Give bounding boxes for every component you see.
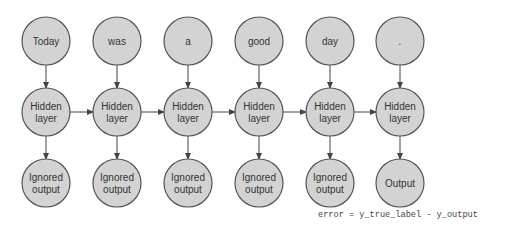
input-node-5: . xyxy=(376,17,424,65)
ignored-output-node-2-label: Ignored xyxy=(171,172,205,183)
input-node-2: a xyxy=(164,17,212,65)
ignored-output-node-1-label: output xyxy=(103,184,131,195)
input-node-1-label: was xyxy=(107,36,126,47)
ignored-output-node-3-label: output xyxy=(245,184,273,195)
hidden-layer-node-2-label: layer xyxy=(177,113,199,124)
output-node-label: Output xyxy=(385,178,415,189)
hidden-layer-node-4: Hiddenlayer xyxy=(306,88,354,136)
ignored-output-node-1-label: Ignored xyxy=(100,172,134,183)
ignored-output-node-0-label: output xyxy=(32,184,60,195)
hidden-layer-node-0: Hiddenlayer xyxy=(22,88,70,136)
hidden-layer-node-3: Hiddenlayer xyxy=(235,88,283,136)
hidden-layer-node-5: Hiddenlayer xyxy=(376,88,424,136)
hidden-layer-node-5-label: Hidden xyxy=(384,101,416,112)
ignored-output-node-0-label: Ignored xyxy=(29,172,63,183)
hidden-layer-node-3-label: Hidden xyxy=(243,101,275,112)
hidden-layer-node-4-label: Hidden xyxy=(314,101,346,112)
error-formula: error = y_true_label - y_output xyxy=(318,210,478,220)
ignored-output-node-2-label: output xyxy=(174,184,202,195)
ignored-output-node-4: Ignoredoutput xyxy=(306,159,354,207)
ignored-output-node-3-label: Ignored xyxy=(242,172,276,183)
rnn-unrolled-diagram: TodayHiddenlayerIgnoredoutputwasHiddenla… xyxy=(0,0,511,232)
hidden-layer-node-5-label: layer xyxy=(389,113,411,124)
output-node: Output xyxy=(376,159,424,207)
ignored-output-node-2: Ignoredoutput xyxy=(164,159,212,207)
input-node-5-label: . xyxy=(399,36,402,47)
hidden-layer-node-1-label: Hidden xyxy=(101,101,133,112)
ignored-output-node-0: Ignoredoutput xyxy=(22,159,70,207)
ignored-output-node-1: Ignoredoutput xyxy=(93,159,141,207)
input-node-0-label: Today xyxy=(33,36,60,47)
hidden-layer-node-2-label: Hidden xyxy=(172,101,204,112)
ignored-output-node-3: Ignoredoutput xyxy=(235,159,283,207)
input-node-0: Today xyxy=(22,17,70,65)
ignored-output-node-4-label: output xyxy=(316,184,344,195)
hidden-layer-node-1-label: layer xyxy=(106,113,128,124)
ignored-output-node-4-label: Ignored xyxy=(313,172,347,183)
hidden-layer-node-0-label: Hidden xyxy=(30,101,62,112)
input-node-4-label: day xyxy=(322,36,338,47)
hidden-layer-node-4-label: layer xyxy=(319,113,341,124)
hidden-layer-node-0-label: layer xyxy=(35,113,57,124)
input-node-2-label: a xyxy=(185,36,191,47)
input-node-4: day xyxy=(306,17,354,65)
hidden-layer-node-1: Hiddenlayer xyxy=(93,88,141,136)
input-node-3-label: good xyxy=(248,36,270,47)
hidden-layer-node-2: Hiddenlayer xyxy=(164,88,212,136)
input-node-1: was xyxy=(93,17,141,65)
input-node-3: good xyxy=(235,17,283,65)
hidden-layer-node-3-label: layer xyxy=(248,113,270,124)
